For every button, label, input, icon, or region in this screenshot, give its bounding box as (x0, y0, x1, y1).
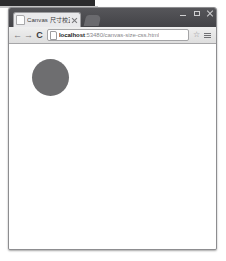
address-bar-text: localhost:53480/canvas-size-css.html (59, 31, 159, 39)
browser-toolbar: ← → C localhost:53480/canvas-size-css.ht… (9, 27, 216, 44)
canvas-circle (32, 59, 69, 96)
browser-tab[interactable]: Canvas 尺寸校正 (13, 12, 81, 27)
forward-button[interactable]: → (23, 29, 34, 42)
close-button[interactable] (206, 10, 214, 18)
address-bar[interactable]: localhost:53480/canvas-size-css.html (47, 29, 189, 41)
menu-line (204, 37, 211, 38)
browser-window: Canvas 尺寸校正 ← → C localhost:53480/canvas… (8, 7, 217, 250)
url-path: :53480/canvas-size-css.html (85, 32, 159, 38)
menu-line (204, 35, 211, 36)
tab-favicon-icon (16, 15, 25, 25)
tab-title: Canvas 尺寸校正 (27, 16, 70, 24)
url-host: localhost (59, 32, 85, 38)
reload-button[interactable]: C (34, 29, 45, 42)
minimize-button[interactable] (178, 10, 187, 18)
menu-icon[interactable] (202, 29, 213, 41)
back-button[interactable]: ← (12, 29, 23, 42)
tab-strip: Canvas 尺寸校正 (9, 8, 216, 27)
tab-close-icon[interactable] (71, 17, 78, 24)
page-info-icon[interactable] (50, 31, 57, 40)
bookmark-star-icon[interactable]: ☆ (191, 29, 202, 41)
new-tab-button[interactable] (84, 15, 102, 26)
menu-line (204, 33, 211, 34)
page-viewport (9, 44, 216, 250)
window-controls (178, 9, 214, 18)
maximize-button[interactable] (192, 10, 201, 18)
